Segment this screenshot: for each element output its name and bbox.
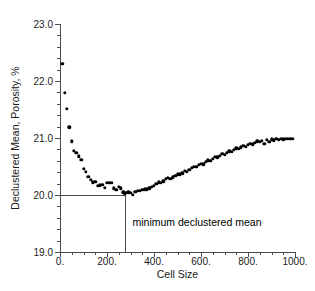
x-tick-minor [84,252,85,255]
x-tick-minor [72,252,73,255]
annotation-label: minimum declustered mean [133,216,262,228]
x-tick-minor [142,252,143,255]
x-tick-minor [260,252,261,255]
x-tick-minor [119,252,120,255]
plot-area: 19.020.021.022.023.0 0.200.400.600.800.1… [60,24,295,252]
y-tick-major [55,138,60,139]
y-tick-label: 21.0 [34,133,53,144]
y-axis-title: Declustered Mean, Porosity, % [8,24,22,252]
data-point [115,188,118,191]
y-tick-minor [57,92,60,93]
data-point [65,107,68,110]
data-point [291,137,294,140]
annotation-horizontal-leader [60,195,125,196]
x-axis-title: Cell Size [60,268,295,280]
y-tick-minor [57,115,60,116]
x-tick-label: 400. [144,256,163,267]
y-tick-minor [57,229,60,230]
y-tick-minor [57,241,60,242]
x-tick-minor [213,252,214,255]
data-point [70,140,73,143]
x-tick-minor [131,252,132,255]
y-tick-minor [57,47,60,48]
y-tick-label: 22.0 [34,76,53,87]
x-tick-label: 800. [238,256,257,267]
y-axis-line [60,24,61,252]
data-point [103,186,106,189]
x-tick-label: 0. [56,256,64,267]
data-point [119,186,122,189]
y-tick-minor [57,172,60,173]
data-point [263,142,266,145]
data-point [131,193,134,196]
y-tick-minor [57,218,60,219]
x-tick-minor [283,252,284,255]
y-tick-minor [57,70,60,71]
x-tick-minor [178,252,179,255]
data-point [267,140,270,143]
y-tick-minor [57,206,60,207]
chart-figure: Declustered Mean, Porosity, % Cell Size … [0,0,315,291]
x-tick-label: 200. [97,256,116,267]
y-tick-minor [57,184,60,185]
data-point [79,158,82,161]
x-tick-label: 600. [191,256,210,267]
y-tick-label: 20.0 [34,190,53,201]
data-point [61,62,64,65]
y-tick-label: 23.0 [34,19,53,30]
y-tick-minor [57,161,60,162]
x-tick-minor [95,252,96,255]
x-tick-minor [272,252,273,255]
y-tick-major [55,81,60,82]
data-point [110,181,113,184]
x-tick-minor [236,252,237,255]
y-tick-minor [57,149,60,150]
y-tick-label: 19.0 [34,247,53,258]
x-tick-minor [225,252,226,255]
y-tick-minor [57,104,60,105]
data-point [84,170,87,173]
data-point [94,180,97,183]
x-tick-minor [166,252,167,255]
y-tick-major [55,24,60,25]
annotation-vertical-leader [125,195,126,252]
data-point [63,91,66,94]
y-tick-minor [57,58,60,59]
data-point [68,125,71,128]
x-tick-minor [189,252,190,255]
x-tick-label: 1000. [282,256,307,267]
y-tick-minor [57,35,60,36]
y-tick-minor [57,127,60,128]
